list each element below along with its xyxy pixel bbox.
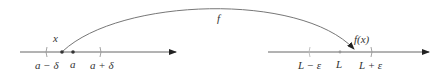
label-L-plus-epsilon: L + ε	[359, 60, 382, 71]
codomain-number-line	[268, 47, 429, 57]
label-f-of-x: f(x)	[354, 34, 369, 45]
label-L-minus-epsilon: L − ε	[298, 60, 321, 71]
label-f: f	[217, 13, 220, 24]
label-a-plus-delta: a + δ	[90, 60, 114, 71]
mapping-arrow-f-icon	[63, 9, 354, 51]
point-L-dot-icon	[339, 51, 342, 54]
label-a-minus-delta: a − δ	[35, 60, 59, 71]
domain-number-line	[20, 47, 176, 57]
point-a-dot-icon	[71, 50, 75, 54]
label-x: x	[53, 33, 58, 44]
label-L: L	[336, 59, 342, 70]
label-a: a	[70, 59, 76, 70]
